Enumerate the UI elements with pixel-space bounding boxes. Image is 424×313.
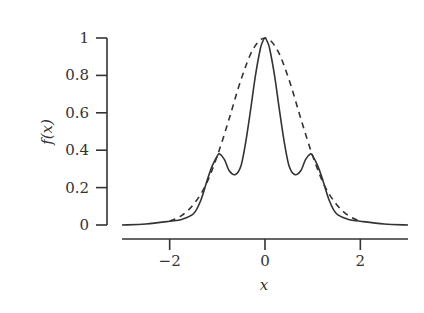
x-tick-label: −2 [159,252,181,270]
y-tick-label: 0.6 [65,104,89,122]
x-tick-label: 0 [260,252,270,270]
chart-container: 00.20.40.60.81 −202 f(x) x [0,0,424,313]
dashed-curve [170,38,361,221]
solid-curve [122,38,408,225]
y-tick-label: 0 [79,216,89,234]
y-tick-label: 1 [79,29,89,47]
x-axis: −202 [122,239,408,270]
line-chart: 00.20.40.60.81 −202 f(x) x [0,0,424,313]
y-axis-label: f(x) [38,119,56,146]
y-axis: 00.20.40.60.81 [65,29,107,234]
y-tick-label: 0.8 [65,66,89,84]
x-axis-label: x [260,276,269,294]
x-tick-label: 2 [356,252,366,270]
y-tick-label: 0.2 [65,179,89,197]
y-tick-label: 0.4 [65,141,89,159]
series-group [122,38,408,225]
